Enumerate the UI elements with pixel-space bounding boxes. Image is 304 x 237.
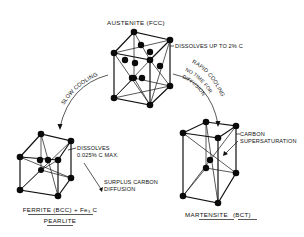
surplus-carbon-label-1: SURPLUS CARBON [104,179,158,185]
surplus-carbon-label-2: DIFFUSION [104,186,136,192]
ferrite-bcc-cube [17,131,75,200]
austenite-title: AUSTENITE (FCC) [107,19,165,26]
austenite-note: DISSOLVES UP TO 2% C [175,43,243,49]
arrowhead-icon [58,124,63,130]
ferrite-leader-line [68,148,76,150]
surplus-carbon-arrow [84,163,101,189]
ferrite-note-1: DISSOLVES [77,145,110,151]
ferrite-title: FERRITE (BCC) + Fe₃ C [23,206,98,213]
martensite-bct-cube [180,119,240,207]
martensite-note-2: SUPERSATURATION [240,138,297,144]
phase-transformation-diagram: AUSTENITE (FCC) DISSOLVES UP TO 2% C SLO… [0,0,304,237]
martensite-name: MARTENSITE [185,211,228,218]
ferrite-note-2: 0.025% C MAX. [77,152,119,158]
martensite-structure: (BCT) [233,211,251,218]
martensite-note-1: CARBON [240,131,265,137]
slow-cooling-label: SLOW COOLING [60,71,99,105]
pearlite-label: PEARLITE [44,217,76,224]
arrowhead-icon [99,187,103,192]
martensite-title: MARTENSITE (BCT) [185,211,251,218]
austenite-fcc-cube [111,29,174,109]
